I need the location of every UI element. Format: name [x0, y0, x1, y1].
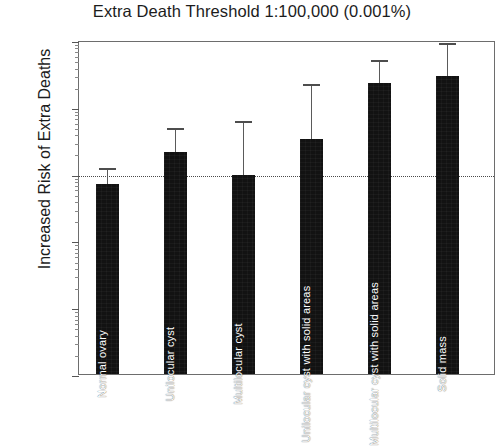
- y-tick-major: [72, 376, 79, 377]
- bar[interactable]: Normal ovary: [96, 184, 119, 374]
- bar-category-label: Multilocular cyst: [232, 323, 244, 405]
- y-tick-minor: [75, 129, 79, 130]
- y-tick-minor: [75, 249, 79, 250]
- y-tick-minor: [75, 336, 79, 337]
- y-tick-minor: [75, 344, 79, 345]
- y-tick-minor: [75, 124, 79, 125]
- error-bar-cap: [235, 121, 252, 123]
- y-tick-minor: [75, 77, 79, 78]
- bar[interactable]: Unilocular cyst with solid areas: [300, 139, 323, 374]
- error-bar-stem: [447, 43, 449, 76]
- y-tick-major: [72, 42, 79, 43]
- y-tick-minor: [75, 257, 79, 258]
- bar-category-label: Unilocular cyst with solid areas: [300, 286, 312, 443]
- y-tick-minor: [75, 211, 79, 212]
- y-tick-minor: [75, 57, 79, 58]
- y-tick-minor: [75, 356, 79, 357]
- y-tick-minor: [75, 52, 79, 53]
- y-tick-major: [72, 242, 79, 243]
- y-tick-minor: [75, 48, 79, 49]
- y-tick-minor: [75, 182, 79, 183]
- error-bar-cap: [99, 168, 116, 170]
- y-tick-minor: [75, 253, 79, 254]
- y-tick-minor: [75, 135, 79, 136]
- chart-title: Extra Death Threshold 1:100,000 (0.001%): [0, 2, 504, 21]
- y-tick-minor: [75, 289, 79, 290]
- bar-category-label: Solid mass: [436, 336, 448, 392]
- bar-category-label: Normal ovary: [96, 330, 108, 398]
- bar-group[interactable]: Unilocular cyst with solid areas: [300, 40, 323, 374]
- y-tick-minor: [75, 89, 79, 90]
- y-tick-minor: [75, 316, 79, 317]
- y-tick-minor: [75, 69, 79, 70]
- bar-category-label: Unilocular cyst: [164, 327, 176, 402]
- bar[interactable]: Solid mass: [436, 76, 459, 374]
- y-tick-minor: [75, 269, 79, 270]
- y-axis-title: Increased Risk of Extra Deaths: [36, 0, 54, 324]
- y-tick-major: [72, 309, 79, 310]
- y-tick-minor: [75, 324, 79, 325]
- bar[interactable]: Unilocular cyst: [164, 152, 187, 374]
- y-tick-minor: [75, 320, 79, 321]
- bar-category-label: Multilocular cyst with solid areas: [368, 282, 380, 446]
- y-tick-major: [72, 109, 79, 110]
- y-tick-minor: [75, 277, 79, 278]
- error-bar-cap: [371, 60, 388, 62]
- y-tick-minor: [75, 45, 79, 46]
- y-tick-minor: [75, 119, 79, 120]
- plot-area: 1000010001001010.1 Normal ovaryUnilocula…: [78, 41, 495, 375]
- bar-group[interactable]: Solid mass: [436, 40, 459, 374]
- error-bar-cap: [167, 128, 184, 130]
- y-tick-minor: [75, 329, 79, 330]
- y-tick-minor: [75, 179, 79, 180]
- y-tick-minor: [75, 144, 79, 145]
- y-tick-minor: [75, 186, 79, 187]
- bar-group[interactable]: Normal ovary: [96, 40, 119, 374]
- y-tick-minor: [75, 196, 79, 197]
- y-tick-minor: [75, 115, 79, 116]
- y-tick-minor: [75, 62, 79, 63]
- bar-group[interactable]: Multilocular cyst: [232, 40, 255, 374]
- bar[interactable]: Multilocular cyst with solid areas: [368, 83, 391, 374]
- y-tick-minor: [75, 222, 79, 223]
- y-tick-major: [72, 176, 79, 177]
- y-tick-minor: [75, 202, 79, 203]
- y-tick-minor: [75, 190, 79, 191]
- error-bar-stem: [175, 128, 177, 152]
- error-bar-stem: [379, 60, 381, 83]
- y-tick-minor: [75, 112, 79, 113]
- y-tick-minor: [75, 312, 79, 313]
- bar[interactable]: Multilocular cyst: [232, 175, 255, 374]
- error-bar-cap: [303, 84, 320, 86]
- error-bar-stem: [311, 84, 313, 139]
- y-tick-minor: [75, 245, 79, 246]
- error-bar-stem: [107, 168, 109, 184]
- error-bar-stem: [243, 121, 245, 175]
- y-tick-minor: [75, 155, 79, 156]
- y-tick-minor: [75, 263, 79, 264]
- error-bar-cap: [439, 43, 456, 45]
- bar-group[interactable]: Multilocular cyst with solid areas: [368, 40, 391, 374]
- bar-group[interactable]: Unilocular cyst: [164, 40, 187, 374]
- extra-death-threshold-line: [79, 176, 494, 177]
